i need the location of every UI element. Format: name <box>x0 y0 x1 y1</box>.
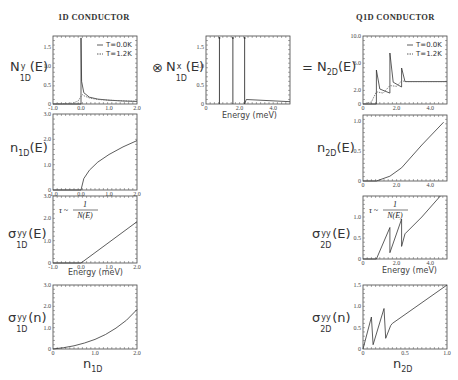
label-sub: 1D <box>18 149 29 158</box>
svg-text:N(E): N(E) <box>76 211 93 220</box>
plot-sigma-2d-n: 00.51.000.51.01.5 <box>363 285 447 349</box>
x-tick-label: 0 <box>362 182 365 188</box>
y-tick-label: 2.0 <box>44 136 52 142</box>
label-arg: (E) <box>332 226 350 241</box>
ylabel-sigma-1d-n: σyy1D(n) <box>8 310 47 325</box>
y-tick-label: 2.0 <box>44 303 52 309</box>
y-tick-label: 2.0 <box>44 215 52 221</box>
y-tick-label: 10.0 <box>351 33 362 39</box>
label-sub: 1D <box>91 365 102 374</box>
y-tick-label: 3.0 <box>44 193 52 199</box>
label-base: σ <box>8 226 16 241</box>
plot-n1d-y: -1.00.01.02.000.51.01.5T=0.0KT=1.2K <box>53 36 137 104</box>
xlabel-energy-middle: Energy (meV) <box>222 111 277 120</box>
title-1d-conductor: 1D CONDUCTOR <box>58 12 130 22</box>
label-base: σ <box>8 310 16 325</box>
y-tick-label: 0.5 <box>197 82 205 88</box>
xlabel-n1d: n1D <box>83 356 103 374</box>
label-sup: yy <box>321 313 330 322</box>
x-tick-label: 0.5 <box>401 350 409 356</box>
label-base: N <box>10 59 20 74</box>
y-tick-label: 0 <box>358 256 361 262</box>
series-line <box>363 81 447 104</box>
y-tick-label: 0 <box>48 346 51 352</box>
legend-dashed: T=1.2K <box>415 50 442 58</box>
label-base: n <box>83 356 91 371</box>
title-q1d-conductor: Q1D CONDUCTOR <box>356 12 435 22</box>
label-base: n <box>317 140 325 155</box>
svg-text:1: 1 <box>393 200 397 209</box>
y-tick-label: 1.0 <box>197 63 205 69</box>
plot-frame <box>363 285 447 349</box>
y-tick-label: 0.5 <box>354 325 362 331</box>
xlabel-energy-left: Energy (meV) <box>68 268 123 277</box>
y-tick-label: 1.5 <box>354 282 362 288</box>
svg-text:τ ~: τ ~ <box>59 206 69 215</box>
y-tick-label: 0 <box>201 101 204 107</box>
x-tick-label: 1.0 <box>105 105 113 111</box>
series-line <box>363 285 447 349</box>
y-tick-label: 0 <box>358 178 361 184</box>
label-sup: x <box>177 62 182 71</box>
plot-sigma-1d-n: 01.02.001.02.03.0 <box>53 285 137 349</box>
label-base: σ <box>312 310 320 325</box>
xlabel-energy-right: Energy (meV) <box>382 266 437 275</box>
y-tick-label: 1.0 <box>44 162 52 168</box>
plot-n1d-e: -1.00.01.02.001.02.03.0 <box>53 114 137 190</box>
y-tick-label: 0.5 <box>354 148 362 154</box>
tau-annotation: τ ~1N(E) <box>369 200 408 220</box>
x-tick-label: 1.0 <box>443 350 451 356</box>
x-tick-label: 2.0 <box>133 264 141 270</box>
x-tick-label: 1.0 <box>105 264 113 270</box>
ylabel-sigma-2d-n: σyy2D(n) <box>312 310 351 325</box>
y-tick-label: 1.5 <box>44 44 52 50</box>
x-tick-label: 0 <box>362 260 365 266</box>
series-line <box>363 122 444 181</box>
x-tick-label: 2.0 <box>393 260 401 266</box>
ylabel-n1d-e: n1D(E) <box>10 140 48 158</box>
label-sub: 1D <box>16 325 27 334</box>
label-base: σ <box>312 226 320 241</box>
equals-operator: = <box>302 60 313 75</box>
y-tick-label: 1.0 <box>354 214 362 220</box>
legend-dashed: T=1.2K <box>105 50 132 58</box>
y-tick-label: 0.5 <box>44 82 52 88</box>
label-arg: (n) <box>28 310 46 325</box>
ylabel-n2d-e: n2D(E) <box>317 140 355 158</box>
y-tick-label: 1.0 <box>44 63 52 69</box>
series-line <box>53 310 137 350</box>
y-tick-label: 2.0 <box>354 87 362 93</box>
tau-annotation: τ ~1N(E) <box>59 200 98 220</box>
ylabel-sigma-2d-e: σyy2D(E) <box>312 226 351 241</box>
label-sup: y <box>21 62 26 71</box>
plot-frame <box>206 36 290 104</box>
y-tick-label: 6.0 <box>354 60 362 66</box>
ylabel-n2d: N2D(E) <box>317 59 356 77</box>
legend-solid: T=0.0K <box>415 41 442 49</box>
y-tick-label: 1.0 <box>44 238 52 244</box>
x-tick-label: 2.0 <box>133 350 141 356</box>
x-tick-label: 0 <box>362 350 365 356</box>
svg-text:1: 1 <box>83 200 87 209</box>
x-tick-label: 0.0 <box>77 105 85 111</box>
x-tick-label: 0 <box>52 350 55 356</box>
x-tick-label: 0 <box>362 105 365 111</box>
series-line <box>363 53 447 104</box>
label-sub: 2D <box>320 325 331 334</box>
x-tick-label: 0 <box>205 105 208 111</box>
label-base: n <box>393 356 401 371</box>
series-line <box>53 141 137 190</box>
plot-sigma-2d-e: 02.04.000.51.0τ ~1N(E) <box>363 196 447 259</box>
svg-text:N(E): N(E) <box>386 211 403 220</box>
label-sup: yy <box>321 229 330 238</box>
label-arg: (n) <box>332 310 350 325</box>
plot-frame <box>363 115 447 181</box>
label-base: N <box>317 59 327 74</box>
y-tick-label: 0 <box>48 101 51 107</box>
x-tick-label: 4.0 <box>426 182 434 188</box>
y-tick-label: 0 <box>358 346 361 352</box>
convolve-operator: ⊗ <box>152 60 163 75</box>
label-sub: 2D <box>325 149 336 158</box>
plot-n1d-x: 02.04.000.51.01.5 <box>206 36 290 104</box>
ylabel-n1d-y: Ny1D(E) <box>10 59 48 74</box>
